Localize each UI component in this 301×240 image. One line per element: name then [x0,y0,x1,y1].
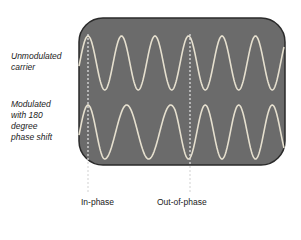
label-line: Modulated [11,99,52,110]
label-line: phase shift [11,132,52,143]
modulated-label: Modulated with 180 degree phase shift [11,99,52,143]
label-line: carrier [11,62,62,73]
label-line: degree [11,121,52,132]
in-phase-label: In-phase [81,197,114,208]
label-line: with 180 [11,110,52,121]
label-line: Unmodulated [11,51,62,62]
unmodulated-carrier-label: Unmodulated carrier [11,51,62,73]
out-of-phase-label: Out-of-phase [157,197,207,208]
